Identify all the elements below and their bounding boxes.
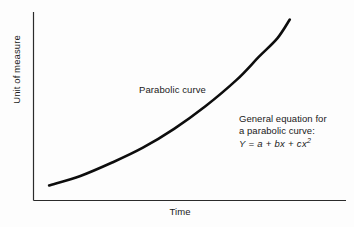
parabolic-curve-figure: Unit of measure Time Parabolic curve Gen… — [0, 0, 354, 227]
equation-annotation: General equation for a parabolic curve: … — [239, 113, 327, 150]
equation-formula-body: Y = a + bx + cx — [239, 138, 307, 149]
y-axis-label: Unit of measure — [11, 24, 22, 116]
equation-line-1: General equation for — [239, 113, 327, 125]
parabolic-curve-line — [49, 20, 290, 186]
equation-line-2: a parabolic curve: — [239, 125, 327, 137]
x-axis-label: Time — [140, 206, 220, 217]
equation-exponent: 2 — [307, 137, 311, 144]
curve-annotation-label: Parabolic curve — [139, 84, 206, 95]
equation-formula: Y = a + bx + cx2 — [239, 138, 327, 150]
